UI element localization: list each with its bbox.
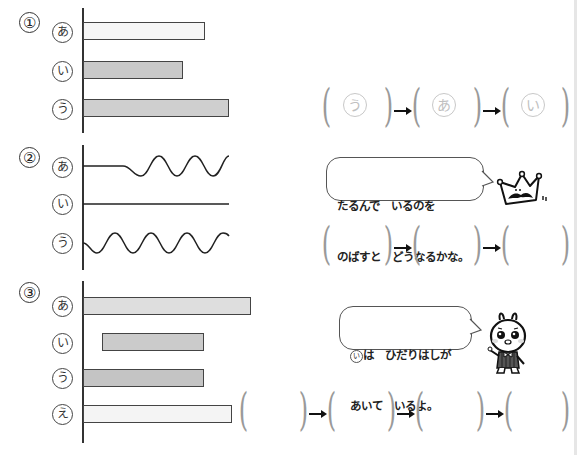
bubble-tail-3	[469, 318, 483, 336]
paren-open: (	[501, 84, 510, 128]
bar-i	[83, 61, 183, 79]
paren-open: (	[327, 388, 336, 432]
paren-close: )	[384, 84, 393, 128]
row-label-i: い	[52, 194, 73, 215]
bar-u	[83, 369, 204, 387]
answer-slot-4[interactable]	[524, 398, 548, 422]
hint-bubble-2: たるんで いるのを のばすと どうなるかな。	[326, 157, 484, 201]
answer-slot-3[interactable]	[521, 232, 545, 256]
answer-slot-2[interactable]: あ	[432, 93, 456, 117]
paren-close: )	[561, 222, 570, 266]
hint-line-1: いは ひだりはしが	[350, 347, 461, 364]
paren-close: )	[473, 222, 482, 266]
bar-a	[83, 297, 251, 315]
paren-close: )	[387, 388, 396, 432]
rope-lines	[83, 150, 233, 260]
arrow-icon	[483, 247, 499, 249]
bar-u	[83, 99, 229, 117]
arrow-icon	[394, 247, 410, 249]
row-label-u: う	[52, 99, 73, 120]
paren-open: (	[501, 222, 510, 266]
rope-a	[83, 156, 229, 176]
paren-open: (	[415, 388, 424, 432]
paren-open: (	[322, 222, 331, 266]
paren-close: )	[473, 84, 482, 128]
row-label-e: え	[52, 404, 73, 425]
bar-e	[83, 405, 232, 423]
arrow-icon	[486, 413, 502, 415]
arrow-icon	[483, 110, 499, 112]
paren-close: )	[561, 84, 570, 128]
paren-close: )	[299, 388, 308, 432]
problem-number-3: ③	[19, 282, 40, 303]
arrow-icon	[397, 413, 413, 415]
paren-close: )	[476, 388, 485, 432]
paren-open: (	[504, 388, 513, 432]
answer-slot-3[interactable]: い	[521, 93, 545, 117]
inline-label-i: い	[350, 350, 363, 363]
row-label-i: い	[52, 333, 73, 354]
answer-slot-1[interactable]	[259, 398, 283, 422]
hint-bubble-3: いは ひだりはしが あいて いるよ。	[339, 306, 472, 350]
paren-open: (	[239, 388, 248, 432]
answer-slot-1[interactable]: う	[343, 93, 367, 117]
row-label-a: あ	[52, 296, 73, 317]
problem-number-2: ②	[19, 147, 40, 168]
answer-slot-2[interactable]	[347, 398, 371, 422]
problem-number-1: ①	[19, 12, 40, 33]
row-label-i: い	[52, 61, 73, 82]
paren-open: (	[412, 222, 421, 266]
arrow-icon	[394, 110, 410, 112]
row-label-a: あ	[52, 157, 73, 178]
rope-u	[83, 233, 229, 253]
row-label-u: う	[52, 368, 73, 389]
paren-close: )	[561, 388, 570, 432]
answer-slot-3[interactable]	[435, 398, 459, 422]
paren-open: (	[412, 84, 421, 128]
answer-slot-2[interactable]	[432, 232, 456, 256]
crown-mustache-icon	[496, 170, 551, 210]
bar-i	[102, 333, 204, 351]
row-label-a: あ	[52, 22, 73, 43]
answer-slot-1[interactable]	[343, 232, 367, 256]
bar-a	[83, 22, 205, 40]
paren-close: )	[384, 222, 393, 266]
bubble-tail-2	[481, 170, 495, 188]
hint-line-1: たるんで いるのを	[337, 198, 473, 215]
arrow-icon	[309, 413, 325, 415]
rabbit-mascot-icon	[484, 310, 532, 376]
paren-open: (	[322, 84, 331, 128]
row-label-u: う	[52, 233, 73, 254]
